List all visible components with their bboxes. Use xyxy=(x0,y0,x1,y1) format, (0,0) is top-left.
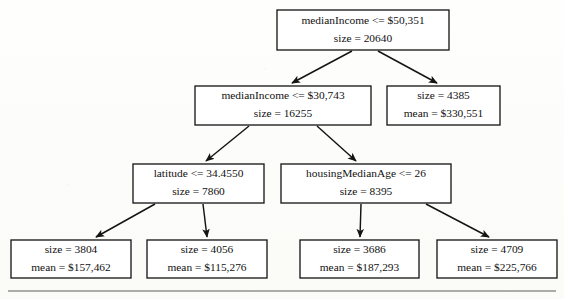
tree-node-n-lr[interactable]: housingMedianAge <= 26size = 8395 xyxy=(281,164,451,203)
node-label-secondary-n-ll: size = 7860 xyxy=(172,185,225,197)
tree-node-leaf-2[interactable]: size = 4056mean = $115,276 xyxy=(147,240,267,278)
node-label-primary-leaf-4: size = 4709 xyxy=(471,243,524,255)
node-label-secondary-root: size = 20640 xyxy=(334,32,393,44)
tree-edge-n-lr-to-leaf-3 xyxy=(360,204,361,237)
node-label-secondary-n-right: mean = $330,551 xyxy=(404,107,484,119)
node-label-secondary-leaf-3: mean = $187,293 xyxy=(320,261,400,273)
tree-node-leaf-1[interactable]: size = 3804mean = $157,462 xyxy=(11,240,131,278)
tree-node-leaf-3[interactable]: size = 3686mean = $187,293 xyxy=(300,240,419,278)
node-label-primary-leaf-1: size = 3804 xyxy=(45,243,98,255)
node-label-primary-n-lr: housingMedianAge <= 26 xyxy=(306,167,426,179)
node-label-secondary-leaf-4: mean = $225,766 xyxy=(457,261,537,273)
node-label-secondary-n-left: size = 16255 xyxy=(254,107,313,119)
node-label-primary-n-right: size = 4385 xyxy=(417,89,470,101)
decision-tree-figure: medianIncome <= $50,351size = 20640media… xyxy=(0,0,564,299)
nodes-layer: medianIncome <= $50,351size = 20640media… xyxy=(11,10,557,278)
node-label-primary-n-left: medianIncome <= $30,743 xyxy=(221,89,345,101)
node-label-primary-root: medianIncome <= $50,351 xyxy=(301,14,425,26)
tree-node-n-ll[interactable]: latitude <= 34.4550size = 7860 xyxy=(133,164,264,203)
node-label-secondary-n-lr: size = 8395 xyxy=(340,185,393,197)
tree-edge-n-lr-to-leaf-4 xyxy=(426,204,489,237)
edges-layer xyxy=(96,51,489,237)
tree-node-root[interactable]: medianIncome <= $50,351size = 20640 xyxy=(277,10,449,50)
tree-edge-n-ll-to-leaf-2 xyxy=(203,204,207,237)
node-label-secondary-leaf-2: mean = $115,276 xyxy=(167,261,246,273)
node-label-primary-leaf-2: size = 4056 xyxy=(181,243,234,255)
tree-node-n-right[interactable]: size = 4385mean = $330,551 xyxy=(387,86,500,125)
node-label-secondary-leaf-1: mean = $157,462 xyxy=(31,261,111,273)
tree-edge-n-ll-to-leaf-1 xyxy=(96,204,155,237)
tree-node-leaf-4[interactable]: size = 4709mean = $225,766 xyxy=(437,240,557,278)
node-label-primary-leaf-3: size = 3686 xyxy=(333,243,386,255)
decision-tree-canvas: medianIncome <= $50,351size = 20640media… xyxy=(0,0,564,299)
node-label-primary-n-ll: latitude <= 34.4550 xyxy=(154,167,244,179)
tree-edge-root-to-n-left xyxy=(292,51,352,83)
tree-edge-root-to-n-right xyxy=(378,51,437,83)
tree-edge-n-left-to-n-ll xyxy=(206,126,249,161)
tree-node-n-left[interactable]: medianIncome <= $30,743size = 16255 xyxy=(195,86,371,125)
tree-edge-n-left-to-n-lr xyxy=(317,126,356,161)
